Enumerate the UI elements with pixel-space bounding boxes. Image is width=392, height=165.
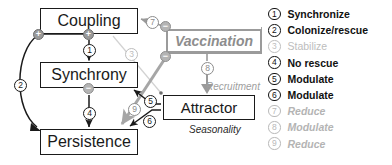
sign-coupling-bottom: +: [83, 29, 94, 40]
legend-label: Synchronize: [288, 8, 350, 20]
edge-marker-1: 1: [83, 44, 96, 57]
legend-item: 7 Reduce: [268, 103, 392, 119]
legend-number: 3: [268, 40, 281, 53]
legend-item: 3 Stabilize: [268, 38, 392, 54]
node-vaccination-label: Vaccination: [175, 33, 253, 49]
legend-label: No rescue: [288, 57, 339, 69]
legend-label: Colonize/rescue: [288, 24, 369, 36]
edge-marker-3: 3: [125, 48, 138, 61]
legend-label: Modulate: [288, 121, 334, 133]
legend-number: 1: [268, 8, 281, 21]
legend-label: Modulate: [288, 89, 334, 101]
legend-number: 2: [268, 24, 281, 37]
legend-item: 9 Reduce: [268, 136, 392, 152]
legend-number: 7: [268, 105, 281, 118]
node-coupling-label: Coupling: [57, 12, 120, 30]
legend-label: Reduce: [288, 138, 326, 150]
diagram-figure: Coupling Synchrony Persistence Attractor…: [0, 0, 392, 165]
sign-vaccination-bottom: −: [160, 51, 171, 62]
legend-item: 2 Colonize/rescue: [268, 22, 392, 38]
edge-marker-8: 8: [201, 62, 214, 75]
causal-loop-diagram: Coupling Synchrony Persistence Attractor…: [0, 0, 262, 165]
edge-marker-5: 5: [144, 95, 157, 108]
legend-label: Reduce: [288, 105, 326, 117]
node-persistence: Persistence: [40, 129, 138, 155]
node-synchrony-label: Synchrony: [51, 66, 127, 84]
sign-synchrony-bottom: −: [83, 83, 94, 94]
node-attractor: Attractor: [163, 95, 255, 120]
legend-item: 5 Modulate: [268, 71, 392, 87]
edge-marker-4: 4: [83, 107, 96, 120]
legend-label: Stabilize: [288, 40, 328, 52]
legend-number: 8: [268, 121, 281, 134]
node-persistence-label: Persistence: [47, 133, 131, 151]
legend-item: 6 Modulate: [268, 87, 392, 103]
sign-vaccination-top: −: [160, 21, 171, 32]
node-vaccination: Vaccination: [166, 29, 262, 53]
legend-number: 9: [268, 137, 281, 150]
legend: 1 Synchronize 2 Colonize/rescue 3 Stabil…: [268, 6, 392, 152]
legend-item: 4 No rescue: [268, 55, 392, 71]
edge-marker-9: 9: [128, 103, 141, 116]
legend-label: Modulate: [288, 73, 334, 85]
edge-marker-6: 6: [143, 115, 156, 128]
label-seasonality: Seasonality: [189, 124, 241, 135]
legend-number: 5: [268, 73, 281, 86]
legend-item: 8 Modulate: [268, 119, 392, 135]
legend-item: 1 Synchronize: [268, 6, 392, 22]
node-attractor-label: Attractor: [181, 99, 238, 116]
edge-marker-7: 7: [146, 16, 159, 29]
sign-coupling-left: +: [33, 29, 44, 40]
label-recruitment: Recruitment: [206, 81, 260, 92]
legend-number: 4: [268, 56, 281, 69]
edge-marker-2: 2: [14, 79, 27, 92]
legend-number: 6: [268, 89, 281, 102]
